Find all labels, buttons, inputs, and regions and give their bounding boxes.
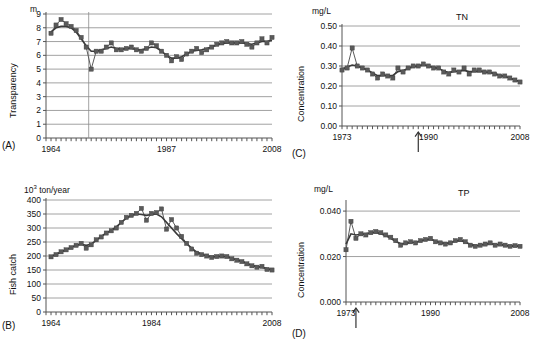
data-point-marker (389, 235, 393, 239)
data-point-marker (386, 74, 390, 78)
panel-b-plot: 050100150200250300350400196419842008 (0, 180, 282, 360)
data-point-marker (200, 253, 204, 257)
data-point-marker (370, 72, 374, 76)
y-axis-tick-label: 0.50 (320, 21, 337, 31)
data-point-marker (215, 254, 219, 258)
data-point-marker (59, 17, 63, 21)
data-point-marker (433, 240, 437, 244)
data-point-marker (472, 68, 476, 72)
data-point-marker (391, 76, 395, 80)
panel-a-plot: 0123456789196419872008 (0, 0, 282, 180)
data-point-marker (169, 59, 173, 63)
data-point-marker (104, 231, 108, 235)
x-axis-tick-label: 2008 (263, 144, 282, 154)
data-point-marker (270, 35, 274, 39)
data-point-marker (426, 64, 430, 68)
data-point-marker (423, 237, 427, 241)
data-point-marker (225, 39, 229, 43)
x-axis-tick-label: 1964 (42, 144, 61, 154)
data-point-marker (64, 22, 68, 26)
data-point-marker (255, 265, 259, 269)
data-point-marker (487, 70, 491, 74)
data-point-marker (260, 37, 264, 41)
data-point-marker (401, 70, 405, 74)
data-point-marker (473, 244, 477, 248)
data-point-marker (49, 255, 53, 259)
data-point-marker (265, 267, 269, 271)
panel-d-plot: 0.0000.0200.040197319902008 (290, 180, 544, 360)
data-point-marker (498, 74, 502, 78)
data-point-marker (508, 244, 512, 248)
data-point-marker (513, 244, 517, 248)
data-point-marker (89, 67, 93, 71)
data-point-marker (396, 66, 400, 70)
data-point-marker (94, 49, 98, 53)
data-point-marker (404, 241, 408, 245)
data-point-marker (220, 254, 224, 258)
data-point-marker (488, 241, 492, 245)
y-axis-tick-label: 5 (36, 64, 41, 74)
data-point-marker (69, 24, 73, 28)
data-point-marker (195, 46, 199, 50)
data-point-marker (442, 70, 446, 74)
data-point-marker (84, 246, 88, 250)
data-point-marker (124, 215, 128, 219)
data-point-marker (260, 264, 264, 268)
y-axis-tick-label: 1 (36, 119, 41, 129)
data-point-marker (180, 57, 184, 61)
data-point-marker (467, 72, 471, 76)
y-axis-tick-label: 0.040 (320, 206, 342, 216)
data-point-marker (437, 66, 441, 70)
data-point-marker (235, 41, 239, 45)
data-point-marker (180, 234, 184, 238)
data-point-marker (418, 239, 422, 243)
data-point-marker (240, 260, 244, 264)
data-point-marker (492, 72, 496, 76)
y-axis-tick-label: 3 (36, 92, 41, 102)
data-point-marker (457, 70, 461, 74)
data-point-marker (478, 243, 482, 247)
y-axis-tick-label: 100 (27, 279, 41, 289)
data-point-marker (210, 255, 214, 259)
data-point-marker (416, 64, 420, 68)
data-point-marker (205, 48, 209, 52)
y-axis-tick-label: 350 (27, 209, 41, 219)
data-point-marker (349, 219, 353, 223)
data-point-marker (354, 236, 358, 240)
data-point-marker (230, 41, 234, 45)
x-axis-tick-label: 2008 (511, 132, 530, 142)
data-point-marker (164, 53, 168, 57)
series-observed-line (342, 48, 520, 82)
data-point-marker (448, 241, 452, 245)
data-point-marker (89, 243, 93, 247)
y-axis-tick-label: 0.10 (320, 101, 337, 111)
data-point-marker (54, 23, 58, 27)
data-point-marker (482, 70, 486, 74)
data-point-marker (144, 218, 148, 222)
data-point-marker (406, 66, 410, 70)
data-point-marker (355, 64, 359, 68)
data-point-marker (129, 45, 133, 49)
data-point-marker (235, 258, 239, 262)
data-point-marker (220, 41, 224, 45)
data-point-marker (250, 264, 254, 268)
data-point-marker (376, 76, 380, 80)
data-point-marker (409, 240, 413, 244)
data-point-marker (129, 213, 133, 217)
x-axis-tick-label: 1973 (333, 132, 352, 142)
data-point-marker (109, 41, 113, 45)
data-point-marker (240, 39, 244, 43)
data-point-marker (215, 42, 219, 46)
data-point-marker (159, 49, 163, 53)
data-point-marker (453, 239, 457, 243)
data-point-marker (250, 45, 254, 49)
data-point-marker (99, 235, 103, 239)
data-point-marker (513, 78, 517, 82)
series-observed-markers (49, 17, 274, 71)
data-point-marker (381, 72, 385, 76)
y-axis-tick-label: 0.40 (320, 41, 337, 51)
data-point-marker (428, 236, 432, 240)
panel-b-fish-catch: 103 ton/year Fish catch (B) 050100150200… (0, 180, 282, 360)
panel-c-tn: mg/L TN Concentration (C) 0.000.100.200.… (290, 0, 544, 180)
data-point-marker (477, 68, 481, 72)
